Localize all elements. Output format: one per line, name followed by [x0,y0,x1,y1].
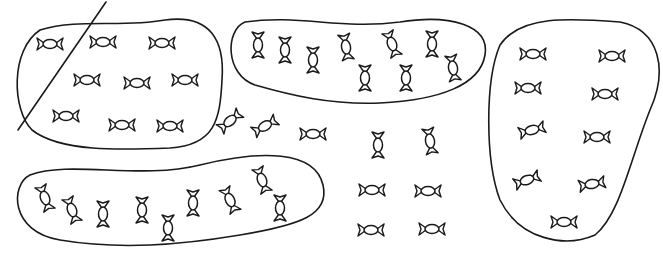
group-top-left-candy-icon [90,36,116,48]
group-right-candy-icon [584,131,610,143]
group-bottom-left-candy-icon [162,215,174,241]
group-top-left-candy-icon [109,119,135,131]
group-top-middle-candy-icon [307,47,319,73]
group-top-left-candy-icon [74,74,100,86]
group-bottom-left-candy-icon [219,186,241,215]
diagram-canvas [0,0,663,253]
group-bottom-left-candy-icon [274,195,286,221]
group-outlines [17,19,659,245]
group-right-candy-icon [578,176,606,192]
group-right-candy-icon [513,170,542,190]
group-top-middle-candy-icon [252,32,264,58]
candies-layer [35,30,625,241]
group-bottom-left-candy-icon [187,190,199,216]
group-bottom-left-candy-icon [62,196,82,225]
candy-grouping-diagram [0,0,663,253]
group-right-candy-icon [599,50,625,62]
loose-candy-icon [300,128,326,140]
cross-out-slash [18,2,106,130]
group-top-middle-candy-icon [445,54,461,82]
group-top-middle-outline [231,19,485,103]
group-right-candy-icon [551,216,577,228]
group-bottom-left-candy-icon [35,184,55,213]
group-right-outline [489,20,659,241]
loose-candy-icon [216,108,244,134]
group-top-left-candy-icon [157,120,183,132]
group-top-middle-candy-icon [382,30,402,59]
loose-candy-icon [251,114,280,137]
group-top-left-candy-icon [53,110,79,122]
group-right-candy-icon [520,48,546,60]
group-top-middle-candy-icon [400,65,412,91]
group-bottom-left-candy-icon [136,197,148,223]
group-right-candy-icon [518,121,546,139]
group-top-middle-candy-icon [279,37,291,63]
group-top-middle-candy-icon [359,65,371,91]
group-top-middle-candy-icon [426,31,438,57]
group-top-left-candy-icon [37,38,63,50]
loose-candy-icon [358,224,384,236]
loose-candy-icon [359,184,385,196]
group-top-left-candy-icon [124,77,150,89]
group-bottom-left-candy-icon [97,201,109,227]
group-bottom-left-candy-icon [252,166,272,195]
loose-candy-icon [422,127,438,155]
group-top-middle-candy-icon [338,33,354,61]
loose-candy-icon [372,132,384,158]
group-right-candy-icon [515,82,541,94]
loose-candy-icon [415,185,441,197]
group-top-left-candy-icon [172,74,198,86]
loose-candy-icon [419,223,445,235]
group-right-candy-icon [592,88,618,100]
group-top-left-candy-icon [149,37,175,49]
